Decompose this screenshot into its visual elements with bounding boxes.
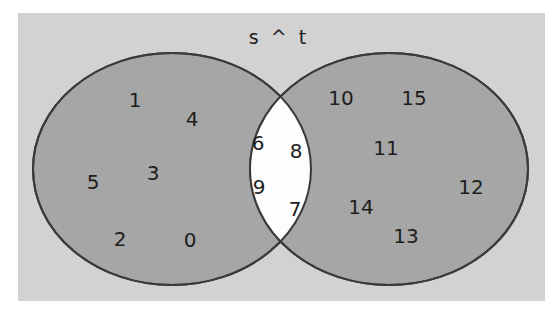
element-label: 6 [252,131,265,155]
element-label: 15 [401,86,426,110]
venn-diagram-canvas: s ^ t 1 4 5 3 2 0 6 8 9 7 10 15 11 12 14… [0,0,558,319]
element-label: 4 [186,107,199,131]
venn-diagram-figure: s ^ t 1 4 5 3 2 0 6 8 9 7 10 15 11 12 14… [0,0,558,319]
element-label: 3 [147,161,160,185]
element-label: 0 [184,228,197,252]
element-label: 9 [253,175,266,199]
element-label: 5 [87,170,100,194]
element-label: 2 [114,227,127,251]
diagram-title: s ^ t [249,26,309,48]
element-label: 8 [290,139,303,163]
element-label: 14 [348,195,373,219]
element-label: 13 [393,224,418,248]
element-label: 11 [373,136,398,160]
element-label: 7 [289,197,302,221]
element-label: 10 [328,86,353,110]
element-label: 12 [458,175,483,199]
element-label: 1 [129,88,142,112]
